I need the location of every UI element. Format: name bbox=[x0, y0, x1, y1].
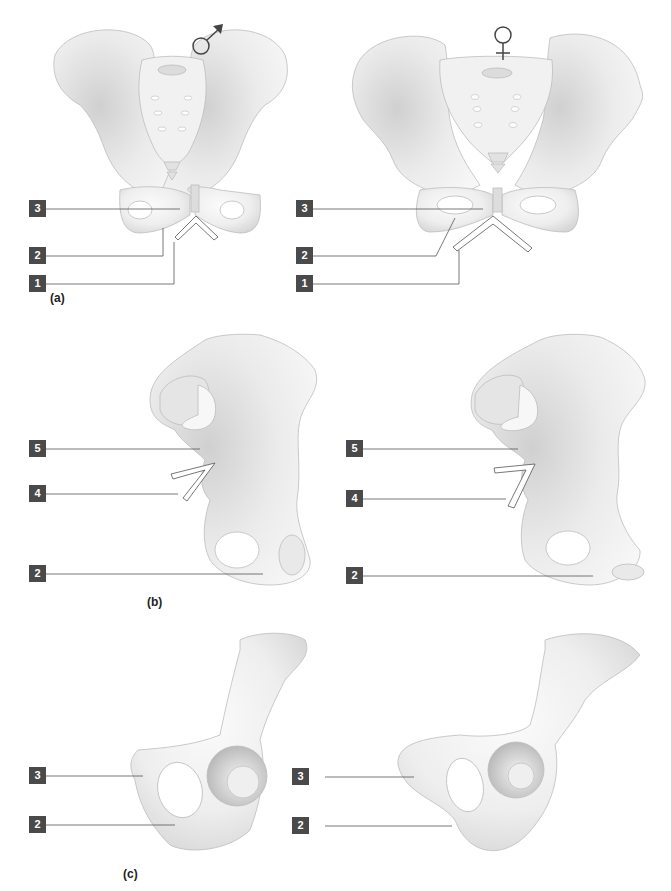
label-box-b-male-3: 2 bbox=[29, 565, 46, 582]
label-box-c-male-2: 2 bbox=[29, 816, 46, 833]
label-box-b-female-3: 2 bbox=[346, 567, 363, 584]
male-symbol-icon bbox=[189, 22, 229, 58]
label-box-b-female-2: 4 bbox=[346, 490, 363, 507]
label-box-b-male-2: 4 bbox=[29, 485, 46, 502]
female-hip-bone-inferior bbox=[398, 634, 640, 851]
label-box-c-female-2: 2 bbox=[292, 817, 309, 834]
label-box-b-male-1: 5 bbox=[29, 440, 46, 457]
label-box-a-male-3: 1 bbox=[29, 275, 46, 292]
label-box-c-female-1: 3 bbox=[292, 768, 309, 785]
part-caption-b: (b) bbox=[147, 595, 162, 609]
male-hip-bone-inferior bbox=[131, 633, 307, 850]
label-box-a-female-1: 3 bbox=[296, 200, 313, 217]
label-box-b-female-1: 5 bbox=[346, 440, 363, 457]
male-pelvis-anterior bbox=[54, 30, 288, 233]
part-caption-c: (c) bbox=[123, 867, 138, 881]
pelvis-illustrations bbox=[0, 0, 671, 891]
female-pelvis-anterior bbox=[352, 34, 642, 232]
label-box-a-male-1: 3 bbox=[29, 200, 46, 217]
female-hip-bone-lateral bbox=[471, 334, 645, 585]
pelvis-comparison-figure: 3 2 1 3 2 1 5 4 2 5 4 2 3 2 3 2 (a) (b) … bbox=[0, 0, 671, 891]
label-box-c-male-1: 3 bbox=[29, 767, 46, 784]
part-caption-a: (a) bbox=[50, 291, 65, 305]
label-box-a-female-3: 1 bbox=[296, 275, 313, 292]
label-box-a-female-2: 2 bbox=[296, 247, 313, 264]
female-symbol-icon bbox=[488, 24, 518, 62]
male-hip-bone-lateral bbox=[150, 334, 317, 585]
label-box-a-male-2: 2 bbox=[29, 247, 46, 264]
